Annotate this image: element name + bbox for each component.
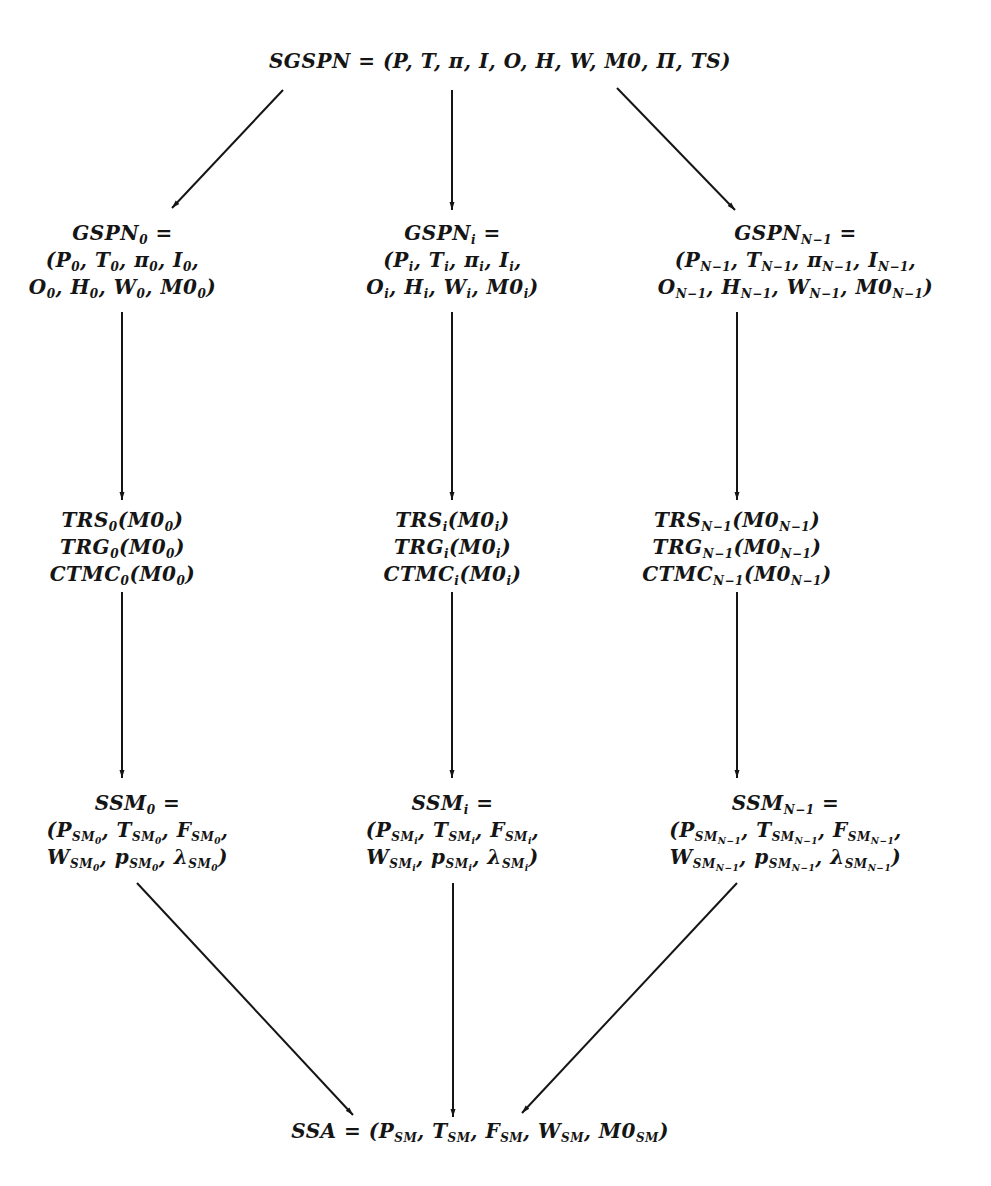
- node-reach-i: TRSi(M0i) TRGi(M0i) CTMCi(M0i): [330, 507, 575, 588]
- gspn-i-line-1: GSPNi =: [330, 220, 575, 247]
- node-ssa: SSA = (PSM, TSM, FSM, WSM, M0SM): [250, 1118, 710, 1145]
- gspn-n1-line-3: ON−1, HN−1, WN−1, M0N−1): [600, 274, 991, 301]
- arrow-root-to-gspnn1: [617, 88, 735, 210]
- ssm-0-line-2: (PSM0, TSM0, FSM0,: [0, 817, 275, 844]
- node-ssm-i: SSMi = (PSMi, TSMi, FSMi, WSMi, pSMi, λS…: [315, 790, 590, 871]
- ssm-n1-line-2: (PSMN−1, TSMN−1, FSMN−1,: [590, 817, 981, 844]
- node-reach-n-1: TRSN−1(M0N−1) TRGN−1(M0N−1) CTMCN−1(M0N−…: [600, 507, 874, 588]
- node-gspn-0: GSPN0 = (P0, T0, π0, I0, O0, H0, W0, M00…: [0, 220, 245, 301]
- ctmc-n1: CTMCN−1(M0N−1): [600, 561, 874, 588]
- arrow-ssmn1-to-ssa: [522, 883, 737, 1113]
- ssm-i-line-2: (PSMi, TSMi, FSMi,: [315, 817, 590, 844]
- trs-i: TRSi(M0i): [330, 507, 575, 534]
- gspn-0-line-3: O0, H0, W0, M00): [0, 274, 245, 301]
- gspn-i-line-3: Oi, Hi, Wi, M0i): [330, 274, 575, 301]
- trg-0: TRG0(M00): [0, 534, 245, 561]
- ssm-n1-line-3: WSMN−1, pSMN−1, λSMN−1): [590, 844, 981, 871]
- trs-0: TRS0(M00): [0, 507, 245, 534]
- trg-n1: TRGN−1(M0N−1): [600, 534, 874, 561]
- node-sgspn: SGSPN = (P, T, π, I, O, H, W, M0, Π, TS): [250, 48, 750, 75]
- gspn-0-line-1: GSPN0 =: [0, 220, 245, 247]
- ssm-i-line-1: SSMi =: [315, 790, 590, 817]
- node-ssm-n-1: SSMN−1 = (PSMN−1, TSMN−1, FSMN−1, WSMN−1…: [590, 790, 981, 871]
- ssm-0-line-1: SSM0 =: [0, 790, 275, 817]
- gspn-n1-line-2: (PN−1, TN−1, πN−1, IN−1,: [600, 247, 991, 274]
- gspn-i-line-2: (Pi, Ti, πi, Ii,: [330, 247, 575, 274]
- node-reach-0: TRS0(M00) TRG0(M00) CTMC0(M00): [0, 507, 245, 588]
- trg-i: TRGi(M0i): [330, 534, 575, 561]
- ctmc-0: CTMC0(M00): [0, 561, 245, 588]
- ctmc-i: CTMCi(M0i): [330, 561, 575, 588]
- node-gspn-n-1: GSPNN−1 = (PN−1, TN−1, πN−1, IN−1, ON−1,…: [600, 220, 991, 301]
- ssa-definition: SSA = (PSM, TSM, FSM, WSM, M0SM): [250, 1118, 710, 1145]
- node-gspn-i: GSPNi = (Pi, Ti, πi, Ii, Oi, Hi, Wi, M0i…: [330, 220, 575, 301]
- ssm-0-line-3: WSM0, pSM0, λSM0): [0, 844, 275, 871]
- gspn-0-line-2: (P0, T0, π0, I0,: [0, 247, 245, 274]
- ssm-i-line-3: WSMi, pSMi, λSMi): [315, 844, 590, 871]
- gspn-n1-line-1: GSPNN−1 =: [600, 220, 991, 247]
- arrow-ssm0-to-ssa: [137, 883, 353, 1115]
- trs-n1: TRSN−1(M0N−1): [600, 507, 874, 534]
- sgspn-definition: SGSPN = (P, T, π, I, O, H, W, M0, Π, TS): [250, 48, 750, 75]
- arrow-layer: [0, 0, 991, 1186]
- arrow-root-to-gspn0: [172, 90, 283, 208]
- node-ssm-0: SSM0 = (PSM0, TSM0, FSM0, WSM0, pSM0, λS…: [0, 790, 275, 871]
- ssm-n1-line-1: SSMN−1 =: [590, 790, 981, 817]
